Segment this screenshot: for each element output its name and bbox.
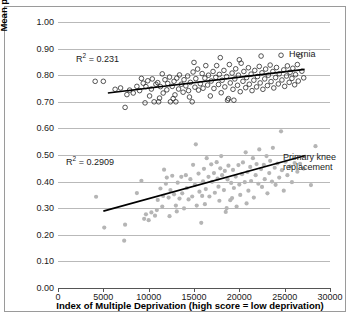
data-point bbox=[176, 181, 180, 185]
y-tick-label: 0.70 bbox=[20, 98, 54, 107]
data-point bbox=[246, 189, 250, 193]
data-point bbox=[190, 194, 194, 198]
data-point bbox=[209, 162, 213, 166]
data-point bbox=[292, 82, 297, 87]
data-point bbox=[182, 77, 187, 82]
data-point bbox=[258, 81, 263, 86]
data-point bbox=[186, 197, 190, 201]
data-point bbox=[93, 79, 98, 84]
data-point bbox=[237, 182, 241, 186]
data-point bbox=[165, 88, 170, 93]
y-tick-label: 0.80 bbox=[20, 71, 54, 80]
data-point bbox=[259, 54, 264, 59]
data-point bbox=[220, 173, 224, 177]
data-point bbox=[149, 210, 153, 214]
data-point bbox=[277, 176, 281, 180]
data-point bbox=[243, 180, 247, 184]
data-point bbox=[122, 239, 126, 243]
data-point bbox=[144, 212, 148, 216]
data-point bbox=[156, 198, 160, 202]
data-point bbox=[196, 88, 201, 93]
data-point bbox=[212, 171, 216, 175]
data-point bbox=[226, 96, 231, 101]
data-point bbox=[206, 73, 211, 78]
data-point bbox=[265, 83, 270, 88]
data-point bbox=[254, 85, 259, 90]
data-point bbox=[231, 87, 236, 92]
data-point bbox=[260, 185, 264, 189]
data-point bbox=[241, 79, 246, 84]
data-point bbox=[135, 191, 139, 195]
data-point bbox=[204, 187, 208, 191]
data-point bbox=[158, 186, 162, 190]
data-point bbox=[252, 78, 257, 83]
data-point bbox=[235, 83, 240, 88]
x-axis-title: Index of Multiple Deprivation (high scor… bbox=[40, 300, 340, 311]
data-point bbox=[285, 64, 290, 69]
data-point bbox=[208, 94, 213, 99]
data-point bbox=[270, 180, 274, 184]
data-point bbox=[254, 162, 258, 166]
knee-series-label-line1: Primary knee bbox=[283, 152, 336, 162]
data-point bbox=[293, 72, 298, 77]
data-point bbox=[192, 60, 197, 65]
data-point bbox=[214, 63, 219, 68]
data-point bbox=[176, 87, 181, 92]
data-point bbox=[153, 214, 157, 218]
data-point bbox=[191, 70, 196, 75]
data-point bbox=[244, 150, 248, 154]
data-point bbox=[301, 76, 306, 81]
data-point bbox=[187, 95, 192, 100]
data-point bbox=[254, 173, 258, 177]
data-point bbox=[232, 98, 237, 103]
data-point bbox=[238, 89, 243, 94]
data-point bbox=[263, 67, 268, 72]
data-point bbox=[248, 165, 252, 169]
data-point bbox=[218, 55, 223, 60]
data-point bbox=[167, 214, 171, 218]
data-point bbox=[200, 71, 205, 76]
data-point bbox=[205, 156, 209, 160]
data-point bbox=[167, 195, 171, 199]
data-point bbox=[165, 176, 169, 180]
data-point bbox=[152, 100, 157, 105]
data-point bbox=[250, 88, 255, 93]
data-point bbox=[190, 100, 195, 105]
data-point bbox=[150, 77, 155, 82]
data-point bbox=[191, 163, 195, 167]
data-point bbox=[160, 72, 165, 77]
data-point bbox=[139, 179, 143, 183]
y-tick-label: 0.00 bbox=[20, 284, 54, 293]
data-point bbox=[182, 206, 186, 210]
data-point bbox=[282, 189, 286, 193]
data-point bbox=[268, 159, 272, 163]
data-point bbox=[205, 83, 210, 88]
data-point bbox=[188, 177, 192, 181]
data-point bbox=[218, 166, 222, 170]
data-point bbox=[101, 79, 106, 84]
y-tick-label: 0.10 bbox=[20, 257, 54, 266]
data-point bbox=[269, 79, 274, 84]
data-point bbox=[225, 206, 229, 210]
data-point bbox=[202, 167, 206, 171]
data-point bbox=[147, 94, 152, 99]
data-point bbox=[206, 175, 210, 179]
data-point bbox=[185, 74, 190, 79]
data-point bbox=[271, 86, 276, 91]
data-point bbox=[139, 76, 144, 81]
data-point bbox=[195, 203, 199, 207]
data-point bbox=[273, 75, 278, 80]
data-point bbox=[274, 65, 279, 70]
data-point bbox=[285, 173, 289, 177]
data-point bbox=[164, 182, 168, 186]
data-point bbox=[174, 203, 178, 207]
data-point bbox=[222, 188, 226, 192]
data-point bbox=[201, 86, 206, 91]
data-point bbox=[257, 64, 262, 69]
data-point bbox=[228, 81, 233, 86]
data-point bbox=[147, 218, 151, 222]
data-point bbox=[175, 209, 179, 213]
data-point bbox=[273, 166, 277, 170]
data-point bbox=[271, 146, 275, 150]
y-axis-title: Mean pre operative EQ 5D index score bbox=[0, 0, 9, 55]
